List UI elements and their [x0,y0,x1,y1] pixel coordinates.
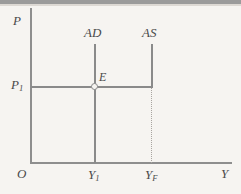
equilibrium-label: E [99,71,106,83]
output-full-employment-label-subscript: F [152,173,157,183]
output-equilibrium-label-subscript: 1 [95,173,99,183]
aggregate-demand-label: AD [84,26,101,39]
price-level-label-text: P [11,77,19,92]
price-axis-label: P [13,14,21,27]
price-level-label-subscript: 1 [19,83,23,93]
aggregate-supply-label: AS [142,26,156,39]
equilibrium-point-marker [91,83,98,90]
output-full-employment-label: YF [145,168,157,181]
aggregate-supply-curve-vertical [151,44,153,88]
output-axis-label: Y [221,167,228,180]
full-employment-dropline [151,88,152,163]
page-edge-shadow [0,4,241,6]
output-axis-line [30,162,232,164]
aggregate-demand-curve [94,44,96,163]
ad-as-diagram: P P1 AD AS E O Y1 YF Y [0,0,241,194]
price-level-label: P1 [11,78,23,91]
output-equilibrium-label: Y1 [88,168,100,181]
origin-label: O [17,167,26,180]
